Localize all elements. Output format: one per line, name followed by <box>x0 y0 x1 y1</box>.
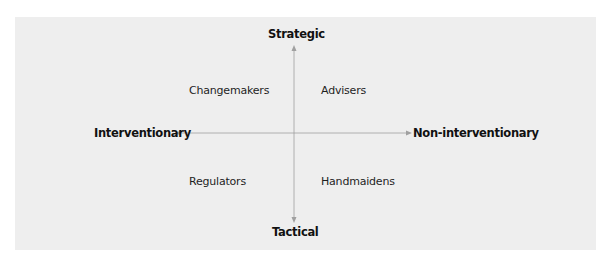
axis-label-right: Non-interventionary <box>413 126 539 140</box>
axis-label-left: Interventionary <box>94 126 191 140</box>
arrow-right-icon <box>406 131 412 136</box>
horizontal-axis <box>175 131 412 136</box>
axis-label-top: Strategic <box>268 27 325 41</box>
quadrant-top-left: Changemakers <box>189 84 269 97</box>
quadrant-bottom-left: Regulators <box>189 175 246 188</box>
arrow-down-icon <box>292 217 297 223</box>
quadrant-bottom-right: Handmaidens <box>321 175 395 188</box>
axis-label-bottom: Tactical <box>272 225 319 239</box>
arrow-up-icon <box>292 45 297 51</box>
quadrant-top-right: Advisers <box>321 84 366 97</box>
vertical-axis <box>292 45 297 223</box>
